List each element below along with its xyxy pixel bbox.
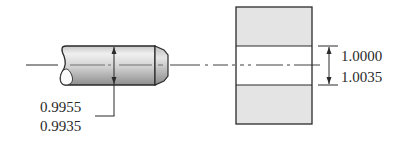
shaft: 0.9955 0.9935 bbox=[26, 46, 168, 134]
shaft-chamfer bbox=[155, 46, 168, 85]
bore-diameter-lower: 1.0035 bbox=[341, 69, 382, 85]
shaft-body bbox=[60, 46, 155, 85]
block-lower-section bbox=[236, 85, 312, 124]
shaft-diameter-upper: 0.9955 bbox=[40, 99, 81, 115]
arrow-up-icon bbox=[327, 47, 332, 54]
block-upper-section bbox=[236, 7, 312, 46]
arrow-down-icon bbox=[327, 77, 332, 84]
bore bbox=[236, 46, 312, 85]
bore-diameter-upper: 1.0000 bbox=[341, 48, 382, 64]
shaft-hole-fit-drawing: 0.9955 0.9935 1.0000 1.0035 bbox=[0, 0, 418, 146]
shaft-diameter-lower: 0.9935 bbox=[40, 118, 81, 134]
bushing-block: 1.0000 1.0035 bbox=[236, 7, 382, 124]
